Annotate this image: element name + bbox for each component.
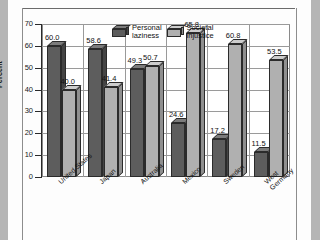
y-axis-title: Percent — [0, 61, 3, 88]
y-tick-label: 50 — [11, 64, 33, 72]
bar-value-label: 17.2 — [210, 126, 225, 135]
y-tick — [35, 111, 41, 112]
bar — [228, 44, 242, 177]
y-tick-label: 40 — [11, 86, 33, 94]
bar-value-label: 11.5 — [252, 139, 266, 148]
bar — [145, 66, 159, 177]
category-separator — [207, 24, 208, 177]
legend-label-societal-injustice: Societalinjustice — [187, 24, 214, 40]
y-tick-label: 0 — [11, 173, 33, 181]
legend-label-personal-laziness: Personallaziness — [132, 24, 162, 40]
bar-value-label: 58.6 — [86, 36, 101, 45]
bar — [212, 139, 226, 177]
bar-value-label: 50.7 — [143, 53, 158, 62]
bar — [254, 152, 268, 177]
legend-item-personal-laziness: Personallaziness — [112, 24, 162, 40]
y-tick — [35, 68, 41, 69]
bar-value-label: 60.8 — [226, 31, 241, 40]
bar — [47, 46, 61, 177]
bar — [104, 87, 118, 177]
bar-value-label: 24.6 — [169, 110, 184, 119]
y-tick-label: 60 — [11, 42, 33, 50]
y-tick — [35, 46, 41, 47]
y-tick-label: 30 — [11, 107, 33, 115]
bar-value-label: 53.5 — [267, 47, 282, 56]
frame-right-edge — [296, 8, 297, 240]
page-gutter-right — [311, 0, 320, 240]
y-tick — [35, 155, 41, 156]
chart-page: Percent 010203040506070 60.040.058.641.4… — [0, 0, 320, 240]
y-tick-label: 70 — [11, 20, 33, 28]
bar — [186, 33, 200, 177]
bar-value-label: 41.4 — [102, 74, 117, 83]
category-separator — [249, 24, 250, 177]
bar — [130, 69, 144, 177]
bar — [269, 60, 283, 177]
page-gutter-left — [0, 0, 8, 240]
category-separator — [125, 24, 126, 177]
y-tick — [35, 133, 41, 134]
legend-swatch-light-icon — [167, 25, 184, 37]
category-separator — [166, 24, 167, 177]
bar-value-label: 49.3 — [128, 56, 143, 65]
y-tick — [35, 90, 41, 91]
legend-item-societal-injustice: Societalinjustice — [167, 24, 214, 40]
plot-area — [42, 24, 290, 177]
legend-swatch-dark-icon — [112, 25, 129, 37]
y-tick-label: 20 — [11, 129, 33, 137]
top-rule — [23, 8, 295, 9]
bar-value-label: 40.0 — [60, 77, 75, 86]
bar-value-label: 60.0 — [45, 33, 60, 42]
legend: Personallaziness Societalinjustice — [112, 24, 214, 40]
bar — [171, 123, 185, 177]
y-tick — [35, 177, 41, 178]
y-tick-label: 10 — [11, 151, 33, 159]
y-tick — [35, 24, 41, 25]
